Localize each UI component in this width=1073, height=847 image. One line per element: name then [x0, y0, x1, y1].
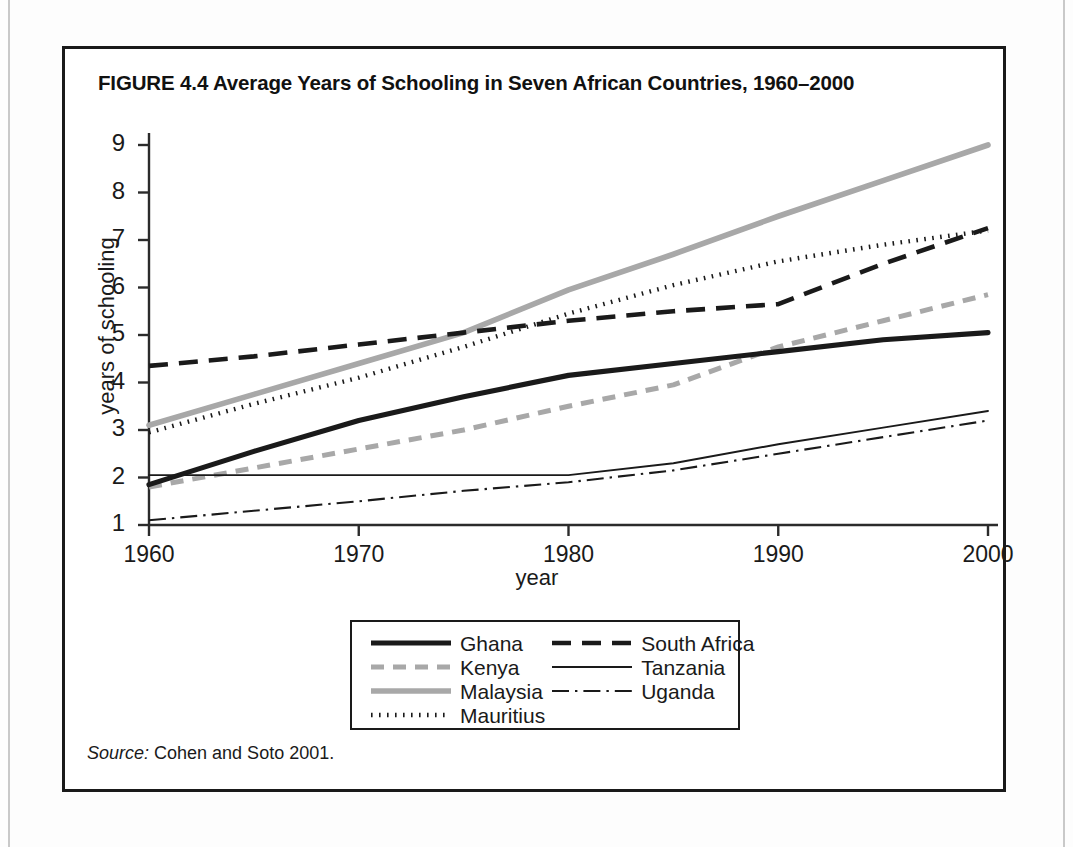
x-tick-label: 1970	[304, 541, 414, 568]
legend-item-ghana[interactable]: Ghana	[370, 631, 545, 655]
legend-item-label: Ghana	[460, 633, 523, 654]
legend-item-label: Tanzania	[641, 657, 725, 678]
legend-item-label: Uganda	[641, 681, 715, 702]
series-line-uganda	[149, 421, 988, 521]
legend-item-label: Mauritius	[460, 705, 545, 726]
legend-line-swatch	[551, 684, 633, 698]
legend-item-tanzania[interactable]: Tanzania	[551, 655, 741, 679]
x-axis-title: year	[65, 565, 1009, 591]
legend-line-swatch	[551, 660, 633, 674]
legend-line-swatch	[370, 684, 452, 698]
y-axis-title: years of schooling	[94, 216, 120, 436]
y-tick-label: 9	[85, 129, 125, 157]
x-tick-label: 1960	[94, 541, 204, 568]
legend-item-label: South Africa	[641, 633, 754, 654]
page-edge-right	[1063, 0, 1065, 847]
legend-item-kenya[interactable]: Kenya	[370, 655, 545, 679]
figure-frame: FIGURE 4.4 Average Years of Schooling in…	[62, 46, 1006, 792]
legend-column-right: South AfricaTanzaniaUganda	[545, 631, 741, 727]
page-edge-left	[8, 0, 10, 847]
y-tick-label: 8	[85, 177, 125, 205]
source-label: Source:	[87, 743, 149, 763]
series-line-mauritius	[149, 231, 988, 433]
legend-item-mauritius[interactable]: Mauritius	[370, 703, 545, 727]
x-tick-label: 1980	[514, 541, 624, 568]
legend-item-label: Kenya	[460, 657, 520, 678]
x-tick-label: 1990	[723, 541, 833, 568]
legend-item-malaysia[interactable]: Malaysia	[370, 679, 545, 703]
y-tick-label: 1	[85, 509, 125, 537]
chart-legend: GhanaKenyaMalaysiaMauritius South Africa…	[350, 620, 740, 730]
legend-item-uganda[interactable]: Uganda	[551, 679, 741, 703]
legend-item-south-africa[interactable]: South Africa	[551, 631, 741, 655]
legend-line-swatch	[370, 636, 452, 650]
series-line-malaysia	[149, 145, 988, 425]
legend-item-label: Malaysia	[460, 681, 543, 702]
source-citation: Cohen and Soto 2001.	[149, 743, 334, 763]
legend-column-left: GhanaKenyaMalaysiaMauritius	[352, 631, 545, 727]
source-note: Source: Cohen and Soto 2001.	[87, 743, 334, 764]
legend-line-swatch	[370, 708, 452, 722]
figure-page: FIGURE 4.4 Average Years of Schooling in…	[0, 0, 1073, 847]
legend-line-swatch	[370, 660, 452, 674]
y-tick-label: 2	[85, 462, 125, 490]
x-tick-label: 2000	[933, 541, 1043, 568]
legend-line-swatch	[551, 636, 633, 650]
